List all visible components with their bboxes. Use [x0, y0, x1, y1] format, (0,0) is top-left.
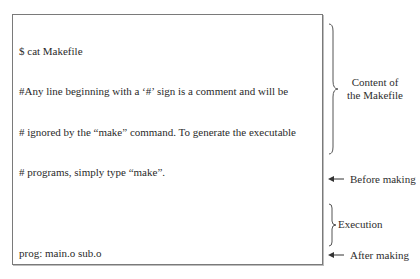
left-arrow-icon: [328, 250, 344, 260]
before-making-annotation: Before making: [328, 173, 416, 185]
left-arrow-icon: [328, 174, 344, 184]
execution-brace-icon: [327, 203, 337, 247]
before-making-label: Before making: [350, 173, 416, 185]
makefile-terminal-box: $ cat Makefile #Any line beginning with …: [12, 14, 323, 265]
after-making-label: After making: [350, 249, 409, 261]
execution-label: Execution: [338, 218, 383, 231]
line-blank: [19, 206, 318, 219]
terminal-lines: $ cat Makefile #Any line beginning with …: [19, 18, 318, 279]
makefile-content-label: Content of the Makefile: [345, 76, 405, 102]
line-comment-3: # programs, simply type “make”.: [19, 166, 318, 179]
makefile-content-brace-icon: [327, 23, 339, 155]
line-cat-command: $ cat Makefile: [19, 45, 318, 58]
line-rule-prog: prog: main.o sub.o: [19, 247, 318, 260]
after-making-annotation: After making: [328, 249, 409, 261]
line-comment-2: # ignored by the “make” command. To gene…: [19, 126, 318, 139]
line-comment-1: #Any line beginning with a ‘#’ sign is a…: [19, 85, 318, 98]
